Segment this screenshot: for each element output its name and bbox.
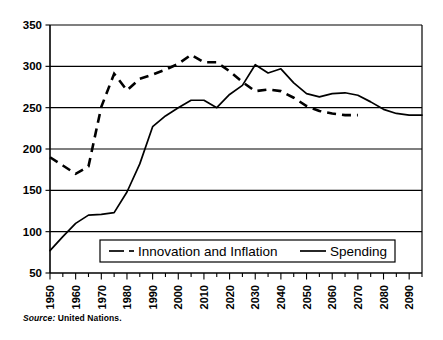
y-axis-tick-labels: 35030025020015010050 (23, 19, 42, 279)
x-tick-label-1990: 1990 (147, 285, 159, 309)
x-axis-ticks (50, 273, 422, 280)
x-axis-tick-labels: 1950196019701980199020002010202020302040… (44, 285, 415, 309)
legend-label-innovation-and-inflation[interactable]: Innovation and Inflation (138, 244, 278, 259)
y-tick-label-350: 350 (23, 19, 42, 31)
data-series (50, 55, 422, 251)
gridlines (50, 66, 422, 231)
legend-label-spending[interactable]: Spending (330, 244, 387, 259)
x-tick-label-2030: 2030 (249, 285, 261, 309)
series-line-innovation-and-inflation (50, 55, 358, 174)
y-tick-label-50: 50 (29, 267, 42, 279)
y-tick-label-200: 200 (23, 143, 42, 155)
x-tick-label-1950: 1950 (44, 285, 56, 309)
x-tick-label-2000: 2000 (172, 285, 184, 309)
x-tick-label-2040: 2040 (275, 285, 287, 309)
x-tick-label-1980: 1980 (121, 285, 133, 309)
source-value: United Nations. (55, 313, 121, 323)
x-tick-label-2070: 2070 (352, 285, 364, 309)
x-tick-label-2010: 2010 (198, 285, 210, 309)
y-tick-label-100: 100 (23, 226, 42, 238)
x-tick-label-2080: 2080 (378, 285, 390, 309)
line-chart: 35030025020015010050 1950196019701980199… (0, 0, 443, 340)
chart-figure: 35030025020015010050 1950196019701980199… (0, 0, 443, 340)
y-tick-label-250: 250 (23, 102, 42, 114)
x-tick-label-1970: 1970 (96, 285, 108, 309)
chart-legend[interactable]: Innovation and InflationSpending (100, 240, 395, 262)
x-tick-label-2090: 2090 (403, 285, 415, 309)
y-tick-label-150: 150 (23, 184, 42, 196)
x-tick-label-2020: 2020 (224, 285, 236, 309)
x-tick-label-2050: 2050 (301, 285, 313, 309)
source-label: Source: (23, 313, 55, 323)
x-tick-label-1960: 1960 (70, 285, 82, 309)
x-tick-label-2060: 2060 (326, 285, 338, 309)
source-note: Source: United Nations. (23, 313, 122, 323)
y-tick-label-300: 300 (23, 60, 42, 72)
